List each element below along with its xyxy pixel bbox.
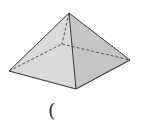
face-left-front xyxy=(9,13,76,89)
pyramid-diagram xyxy=(0,0,147,132)
face-right-front xyxy=(69,13,130,89)
figure-label: ( xyxy=(48,99,55,121)
pyramid-figure xyxy=(0,0,147,132)
